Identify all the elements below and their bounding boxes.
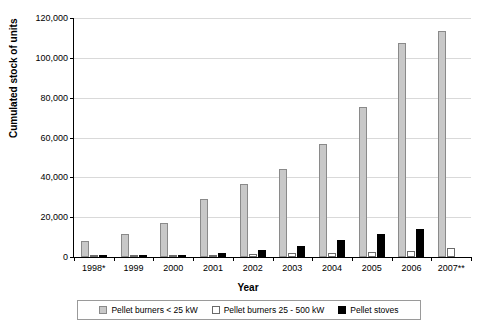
y-axis-tick: [70, 98, 74, 99]
bar: [258, 250, 266, 257]
y-axis-tick-label: 20,000: [40, 212, 68, 222]
x-axis-tick: [114, 257, 115, 261]
x-axis-tick-label: 2007**: [438, 263, 465, 273]
x-axis-tick: [431, 257, 432, 261]
y-axis-tick-label: 120,000: [35, 13, 68, 23]
bar: [377, 234, 385, 257]
bar: [178, 255, 186, 257]
x-axis-tick: [352, 257, 353, 261]
x-axis-tick: [153, 257, 154, 261]
x-axis-tick: [312, 257, 313, 261]
y-axis-tick-label: 0: [63, 252, 68, 262]
bar: [81, 241, 89, 257]
bar-group: [121, 18, 147, 257]
bar-group: [359, 18, 385, 257]
y-axis-tick: [70, 58, 74, 59]
bar: [368, 252, 376, 257]
bar: [279, 169, 287, 257]
chart-figure: Cumulated stock of units 020,00040,00060…: [0, 0, 496, 327]
bar: [407, 251, 415, 257]
bar: [90, 255, 98, 257]
x-axis-tick-label: 1999: [124, 263, 144, 273]
bar: [200, 199, 208, 257]
x-axis-tick: [233, 257, 234, 261]
bar: [337, 240, 345, 257]
x-axis-tick-label: 2004: [322, 263, 342, 273]
bar: [288, 253, 296, 257]
bar-group: [160, 18, 186, 257]
legend-label: Pellet burners 25 - 500 kW: [224, 305, 325, 315]
x-axis-tick: [193, 257, 194, 261]
bar: [438, 31, 446, 257]
bar: [121, 234, 129, 257]
bar-group: [319, 18, 345, 257]
x-axis-tick-label: 2006: [401, 263, 421, 273]
x-axis-tick-label: 2000: [163, 263, 183, 273]
x-axis-tick: [392, 257, 393, 261]
bar: [319, 144, 327, 257]
x-axis-tick: [273, 257, 274, 261]
y-axis-tick-label: 100,000: [35, 53, 68, 63]
bar: [160, 223, 168, 257]
x-axis-tick: [74, 257, 75, 261]
bar: [328, 253, 336, 257]
x-axis-tick-label: 1998*: [82, 263, 106, 273]
bar: [297, 246, 305, 257]
x-axis-tick: [471, 257, 472, 261]
y-axis-tick-label: 40,000: [40, 172, 68, 182]
bar: [416, 229, 424, 257]
x-axis-tick-label: 2001: [203, 263, 223, 273]
y-axis-tick-label: 80,000: [40, 93, 68, 103]
bar: [218, 253, 226, 257]
x-axis-title: Year: [0, 282, 496, 293]
bar: [130, 255, 138, 257]
y-axis-tick-label: 60,000: [40, 133, 68, 143]
legend-swatch-icon: [212, 306, 220, 314]
legend-swatch-icon: [338, 306, 346, 314]
bar-group: [438, 18, 464, 257]
legend-label: Pellet burners < 25 kW: [111, 305, 197, 315]
x-axis-tick-label: 2002: [243, 263, 263, 273]
plot-area: 020,00040,00060,00080,000100,000120,0001…: [73, 18, 471, 258]
y-axis-tick: [70, 177, 74, 178]
bar: [99, 255, 107, 257]
y-axis-tick: [70, 18, 74, 19]
bar: [209, 255, 217, 257]
legend-item: Pellet burners 25 - 500 kW: [212, 305, 325, 315]
bar: [398, 43, 406, 257]
bar: [240, 184, 248, 257]
y-axis-tick: [70, 138, 74, 139]
legend-label: Pellet stoves: [350, 305, 398, 315]
x-axis-tick-label: 2003: [282, 263, 302, 273]
bar-group: [240, 18, 266, 257]
legend-item: Pellet burners < 25 kW: [99, 305, 197, 315]
bar-group: [398, 18, 424, 257]
bar: [249, 254, 257, 257]
bar: [447, 248, 455, 257]
bar: [139, 255, 147, 257]
bar: [359, 107, 367, 257]
bar-group: [200, 18, 226, 257]
y-axis-title: Cumulated stock of units: [8, 19, 19, 138]
legend-item: Pellet stoves: [338, 305, 398, 315]
bar-group: [81, 18, 107, 257]
bar: [169, 255, 177, 257]
bar-group: [279, 18, 305, 257]
x-axis-tick-label: 2005: [362, 263, 382, 273]
legend-swatch-icon: [99, 306, 107, 314]
y-axis-tick: [70, 217, 74, 218]
chart-legend: Pellet burners < 25 kWPellet burners 25 …: [77, 300, 421, 320]
